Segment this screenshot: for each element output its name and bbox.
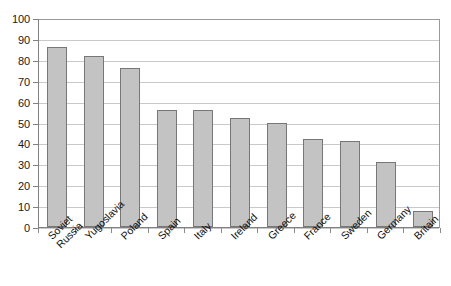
gridline bbox=[39, 19, 439, 20]
y-axis-tick-label: 60 bbox=[18, 97, 30, 109]
bar bbox=[84, 56, 104, 227]
plot-area bbox=[38, 19, 440, 228]
x-axis-labels: SovietRussiaYugoslaviaPolandSpainItalyIr… bbox=[0, 228, 451, 286]
bar bbox=[157, 110, 177, 227]
y-axis-tick-label: 50 bbox=[18, 118, 30, 130]
y-axis-tick-label: 80 bbox=[18, 55, 30, 67]
bar-chart: 0102030405060708090100 SovietRussiaYugos… bbox=[0, 0, 451, 286]
y-axis-tick-label: 20 bbox=[18, 180, 30, 192]
y-axis-tick-label: 70 bbox=[18, 76, 30, 88]
bar bbox=[47, 47, 67, 227]
y-axis-tick-label: 30 bbox=[18, 159, 30, 171]
bar bbox=[267, 123, 287, 228]
bar bbox=[230, 118, 250, 227]
y-axis-tick-label: 90 bbox=[18, 34, 30, 46]
bar bbox=[193, 110, 213, 227]
y-axis-tick-label: 40 bbox=[18, 138, 30, 150]
gridline bbox=[39, 40, 439, 41]
y-axis-tick-label: 10 bbox=[18, 201, 30, 213]
y-axis-tick-label: 100 bbox=[12, 13, 30, 25]
